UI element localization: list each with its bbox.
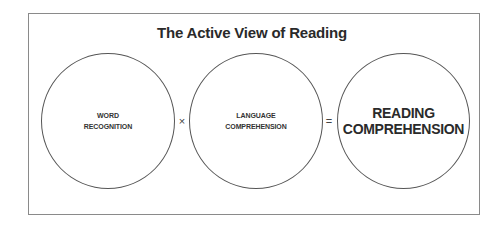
label-line: RECOGNITION [84, 121, 132, 132]
diagram-title: The Active View of Reading [0, 24, 504, 41]
circle-reading-comprehension: READING COMPREHENSION [337, 53, 470, 189]
word-recognition-label: WORD RECOGNITION [84, 110, 132, 132]
reading-comprehension-label: READING COMPREHENSION [343, 105, 464, 137]
circle-language-comprehension: LANGUAGE COMPREHENSION [189, 53, 323, 189]
label-line: READING [343, 105, 464, 121]
label-line: WORD [84, 110, 132, 121]
label-line: COMPREHENSION [225, 121, 286, 132]
label-line: LANGUAGE [225, 110, 286, 121]
language-comprehension-label: LANGUAGE COMPREHENSION [225, 110, 286, 132]
label-line: COMPREHENSION [343, 121, 464, 137]
equals-operator: = [322, 116, 336, 127]
multiply-operator: × [175, 116, 189, 127]
circle-word-recognition: WORD RECOGNITION [41, 53, 175, 189]
